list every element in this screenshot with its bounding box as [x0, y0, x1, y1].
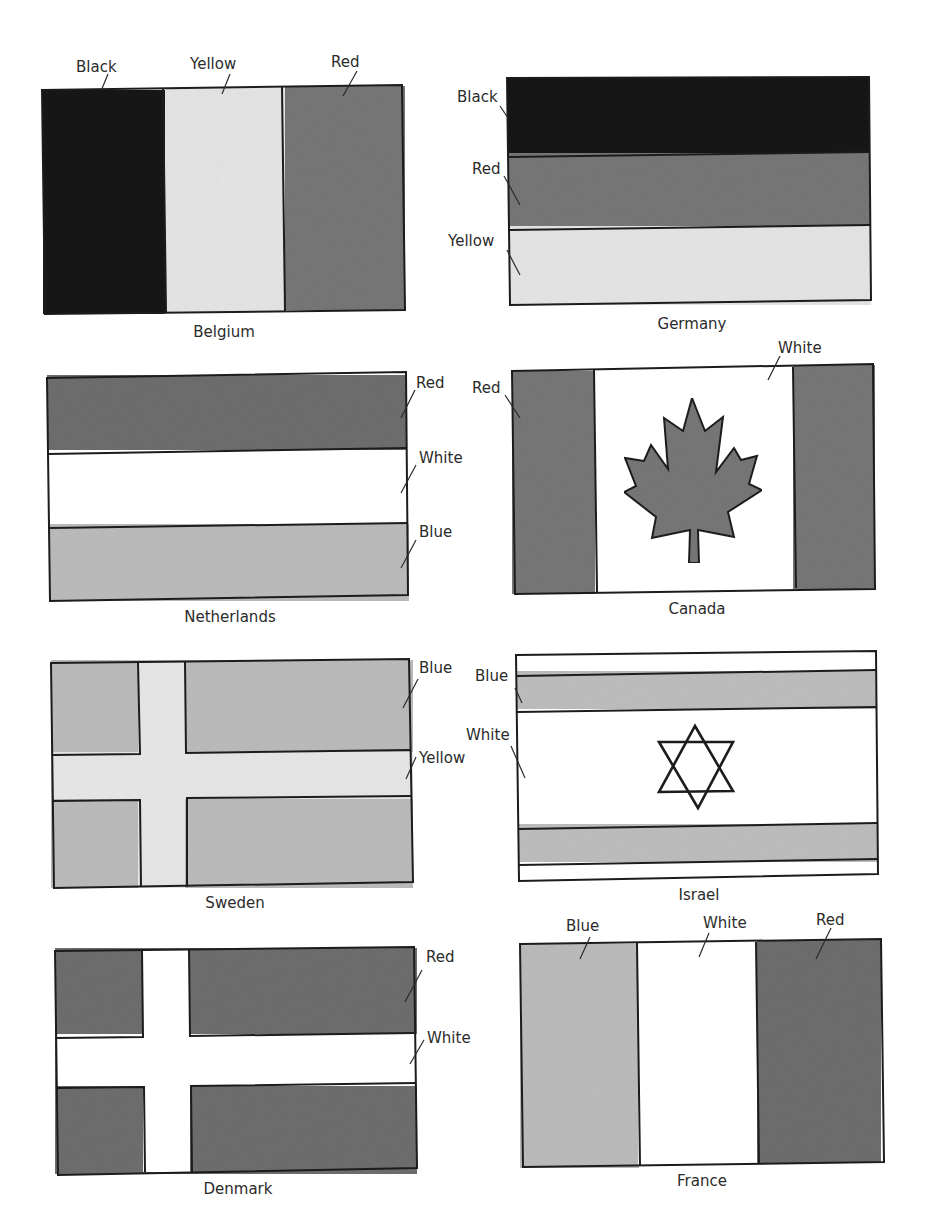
caption-netherlands: Netherlands [184, 608, 276, 626]
france-red-band [757, 940, 881, 1163]
caption-sweden: Sweden [205, 894, 264, 912]
label-france-white: White [703, 914, 747, 932]
belgium-black-band [43, 90, 165, 314]
flag-belgium: Black Yellow Red Belgium [42, 53, 405, 341]
label-france-blue: Blue [566, 917, 599, 935]
flag-israel: Blue White Israel [466, 651, 878, 904]
flag-germany: Black Red Yellow Germany [447, 77, 871, 333]
netherlands-blue-band [50, 524, 409, 601]
label-netherlands-white: White [419, 449, 463, 467]
germany-yellow-band [510, 226, 871, 305]
france-blue-band [520, 944, 639, 1168]
sweden-yellow-horizontal [52, 752, 413, 799]
denmark-white-horizontal [56, 1034, 417, 1086]
israel-blue-stripe-top [517, 671, 877, 709]
flag-denmark: Red White Denmark [55, 947, 471, 1198]
israel-blue-stripe-bottom [519, 824, 878, 862]
label-netherlands-blue: Blue [419, 523, 452, 541]
label-france-red: Red [816, 911, 845, 929]
netherlands-white-band [49, 450, 408, 527]
label-germany-red: Red [472, 160, 501, 178]
flag-france: Blue White Red France [520, 911, 884, 1190]
germany-red-band [509, 153, 870, 228]
caption-canada: Canada [668, 600, 725, 618]
label-canada-white: White [778, 339, 822, 357]
label-denmark-red: Red [426, 948, 455, 966]
caption-germany: Germany [658, 315, 727, 333]
label-israel-white: White [466, 726, 510, 744]
label-sweden-yellow: Yellow [418, 749, 465, 767]
label-belgium-black: Black [76, 58, 117, 76]
caption-israel: Israel [679, 886, 720, 904]
belgium-red-band [285, 86, 405, 310]
label-sweden-blue: Blue [419, 659, 452, 677]
flags-diagram: Black Yellow Red Belgium Black Red Yello… [0, 0, 926, 1219]
caption-france: France [677, 1172, 727, 1190]
netherlands-red-band [47, 375, 407, 455]
france-white-band [638, 942, 758, 1166]
belgium-yellow-band [165, 88, 285, 312]
label-germany-black: Black [457, 88, 498, 106]
label-israel-blue: Blue [475, 667, 508, 685]
canada-red-left [512, 371, 596, 594]
flag-netherlands: Red White Blue Netherlands [47, 372, 463, 626]
label-belgium-red: Red [331, 53, 360, 71]
flag-canada: Red White Canada [472, 339, 875, 618]
label-netherlands-red: Red [416, 374, 445, 392]
caption-denmark: Denmark [204, 1180, 273, 1198]
label-denmark-white: White [427, 1029, 471, 1047]
caption-belgium: Belgium [193, 323, 255, 341]
flag-sweden: Blue Yellow Sweden [51, 659, 465, 912]
label-germany-yellow: Yellow [447, 232, 494, 250]
germany-black-band [507, 78, 869, 156]
canada-red-right [793, 365, 875, 589]
label-canada-red: Red [472, 379, 501, 397]
label-belgium-yellow: Yellow [189, 55, 236, 73]
